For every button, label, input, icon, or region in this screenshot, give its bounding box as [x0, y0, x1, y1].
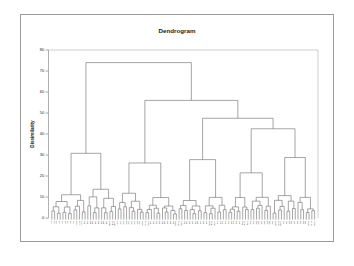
plot-area-border	[49, 50, 319, 218]
y-tick-label-80: 80	[40, 47, 45, 52]
y-axis: 80 70 60 50 40 30 20 10 0	[40, 47, 49, 220]
y-tick-label-30: 30	[40, 152, 45, 157]
leaf-label: H12	[313, 220, 316, 225]
dendrogram-tree	[52, 63, 315, 218]
y-tick-label-60: 60	[40, 89, 45, 94]
dendrogram-chart: Dendrogram Dissimilarity 80 70 60	[0, 0, 354, 266]
y-tick-label-50: 50	[40, 110, 45, 115]
dendrogram-links	[52, 63, 315, 218]
leaf-label-band: A1A2A3A4A5A6A7A8A9A10A11A12B1B2B3B4B5B6B…	[50, 218, 316, 226]
y-axis-title-group: Dissimilarity	[30, 120, 35, 148]
y-tick-label-0: 0	[42, 215, 45, 220]
leaf-tick-marks	[52, 218, 315, 220]
figure-root: Dendrogram Dissimilarity 80 70 60	[0, 0, 354, 266]
y-tick-label-70: 70	[40, 68, 45, 73]
y-axis-title: Dissimilarity	[30, 120, 35, 148]
y-tick-label-40: 40	[40, 131, 45, 136]
chart-title: Dendrogram	[159, 27, 196, 34]
y-tick-label-20: 20	[40, 173, 45, 178]
y-tick-label-10: 10	[40, 194, 45, 199]
